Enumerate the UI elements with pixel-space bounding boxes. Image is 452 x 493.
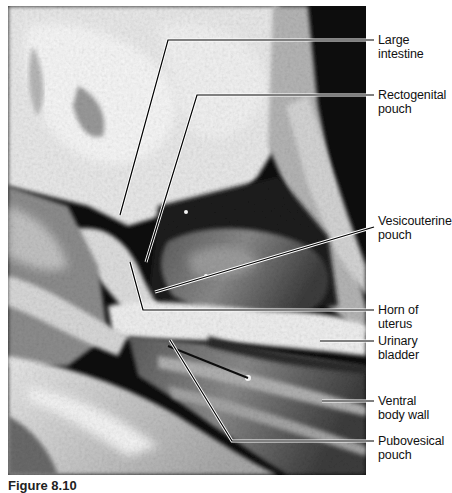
label-rectogenital-pouch: Rectogenital pouch xyxy=(378,88,446,116)
label-pubovesical-pouch: Pubovesical pouch xyxy=(378,434,444,462)
label-ventral-body-wall: Ventral body wall xyxy=(378,394,429,422)
label-urinary-bladder: Urinary bladder xyxy=(378,334,419,362)
dissection-photo xyxy=(8,6,366,475)
figure-caption: Figure 8.10 xyxy=(8,478,77,493)
label-vesicouterine-pouch: Vesicouterine pouch xyxy=(378,214,452,242)
label-large-intestine: Large intestine xyxy=(378,33,424,61)
label-horn-of-uterus: Horn of uterus xyxy=(378,303,418,331)
